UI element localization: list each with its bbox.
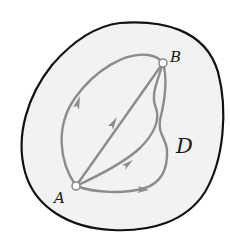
region-d-boundary bbox=[22, 22, 224, 230]
region-d-label: D bbox=[175, 134, 193, 158]
point-b-label: B bbox=[169, 48, 181, 66]
point-a-label: A bbox=[52, 189, 65, 207]
point-a-marker bbox=[72, 182, 80, 190]
point-b-marker bbox=[159, 59, 167, 67]
region-diagram: A B D bbox=[0, 0, 230, 243]
